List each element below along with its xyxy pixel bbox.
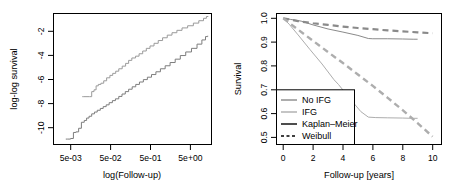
- left-x-ticklabel: 5e-01: [140, 153, 162, 163]
- right-x-ticklabel: 0: [281, 153, 286, 163]
- right-y-ticklabel: 0.5: [259, 131, 269, 143]
- right-x-ticklabel: 4: [341, 153, 346, 163]
- legend-label-ifg: IFG: [302, 107, 317, 117]
- figure-container: -2 -4 -6 -8 -10 5e-03 5e-02 5e-01 5e+00 …: [0, 0, 451, 192]
- left-y-ticklabel: -6: [36, 75, 46, 83]
- left-x-ticklabel: 5e+00: [178, 153, 202, 163]
- left-x-axis-ticks: [71, 145, 191, 151]
- right-y-ticklabel: 0.6: [259, 107, 269, 119]
- left-x-axis-ticklabels: 5e-03 5e-02 5e-01 5e+00: [60, 153, 203, 163]
- right-x-ticklabel: 6: [371, 153, 376, 163]
- right-x-axis-ticks: [283, 145, 433, 151]
- chart-panel-left: -2 -4 -6 -8 -10 5e-03 5e-02 5e-01 5e+00 …: [0, 0, 226, 192]
- legend: No IFG IFG Kaplan–Meier Weibull: [277, 90, 358, 145]
- left-x-ticklabel: 5e-02: [100, 153, 122, 163]
- curve-no-ifg-weibull: [283, 18, 432, 33]
- left-x-ticklabel: 5e-03: [60, 153, 82, 163]
- legend-label-kaplan-meier: Kaplan–Meier: [302, 119, 358, 129]
- chart-panel-right: 1.0 0.9 0.8 0.7 0.6 0.5 0 2 4 6: [225, 0, 451, 192]
- curve-ifg: [82, 16, 208, 97]
- left-curves: [66, 16, 208, 139]
- legend-label-no-ifg: No IFG: [302, 95, 331, 105]
- left-plot-frame: [54, 14, 212, 145]
- right-y-ticklabel: 0.7: [259, 84, 269, 96]
- left-y-axis-title: log-log survival: [9, 48, 19, 109]
- left-y-ticklabel: -4: [36, 51, 46, 59]
- right-x-ticklabel: 10: [428, 153, 438, 163]
- right-x-axis-title: Follow-up [years]: [324, 170, 394, 180]
- curve-no-ifg: [66, 36, 208, 139]
- left-y-ticklabel: -8: [36, 100, 46, 108]
- right-x-axis-ticklabels: 0 2 4 6 8 10: [281, 153, 438, 163]
- right-y-axis-title: Survival: [233, 63, 243, 96]
- right-y-ticklabel: 1.0: [259, 12, 269, 24]
- left-y-ticklabel: -10: [36, 121, 46, 134]
- left-x-axis-title: log(Follow-up): [103, 170, 161, 180]
- right-y-ticklabel: 0.8: [259, 60, 269, 72]
- right-y-ticklabel: 0.9: [259, 36, 269, 48]
- right-y-axis-ticks: [271, 18, 277, 137]
- left-y-ticklabel: -2: [36, 27, 46, 35]
- left-panel-svg: -2 -4 -6 -8 -10 5e-03 5e-02 5e-01 5e+00 …: [0, 0, 226, 192]
- right-y-axis-ticklabels: 1.0 0.9 0.8 0.7 0.6 0.5: [259, 12, 269, 143]
- right-x-ticklabel: 2: [311, 153, 316, 163]
- legend-label-weibull: Weibull: [302, 131, 331, 141]
- right-x-ticklabel: 8: [400, 153, 405, 163]
- left-y-axis-ticks: [48, 31, 54, 127]
- left-y-axis-ticklabels: -2 -4 -6 -8 -10: [36, 27, 46, 134]
- right-panel-svg: 1.0 0.9 0.8 0.7 0.6 0.5 0 2 4 6: [225, 0, 451, 192]
